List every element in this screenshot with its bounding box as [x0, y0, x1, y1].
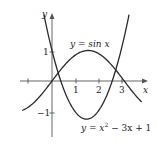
x-axis-label: x [143, 85, 148, 95]
parabola-curve-label: y = x2 − 3x + 1 [80, 121, 151, 133]
x-axis-arrow-icon [142, 79, 148, 84]
sine-curve [22, 51, 142, 111]
y-axis-label: y [41, 9, 48, 19]
y-tick-label-minus1: −1 [37, 108, 50, 118]
parabola-curve [44, 15, 129, 119]
x-tick-label-1: 1 [73, 85, 79, 95]
sine-curve-label: y = sin x [69, 39, 110, 49]
function-plot: y x 1 2 3 1 −1 y = sin x y = x2 − 3x + 1 [0, 0, 157, 147]
x-tick-label-3: 3 [119, 85, 125, 95]
x-tick-label-2: 2 [96, 85, 102, 95]
y-tick-label-1: 1 [43, 47, 49, 57]
y-axis-arrow-icon [50, 13, 55, 19]
